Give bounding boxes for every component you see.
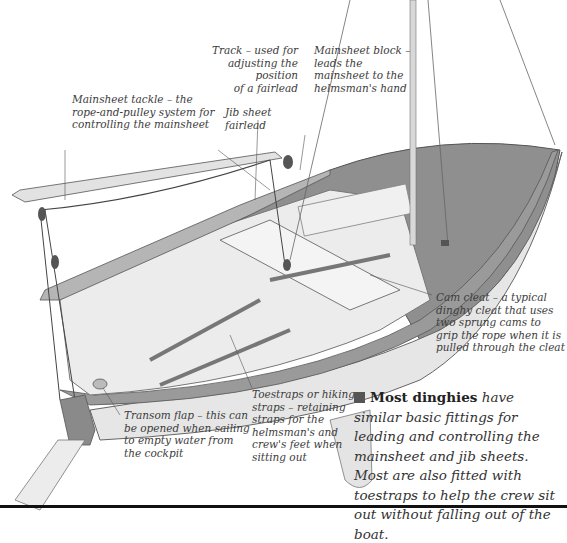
label-mainsheet-block: Mainsheet block – leads the mainsheet to… <box>314 44 411 94</box>
label-line: crew's feet when <box>252 438 355 451</box>
caption: Most dinghies have similar basic fitting… <box>354 388 564 543</box>
label-line: be opened when sailing <box>124 422 250 435</box>
label-line: the cockpit <box>124 447 250 460</box>
label-line: straps – retaining <box>252 401 355 414</box>
label-toestraps: Toestraps or hiking straps – retaining s… <box>252 388 355 463</box>
label-line: controlling the mainsheet <box>72 118 214 131</box>
label-line: straps for the <box>252 413 355 426</box>
label-track: Track – used for adjusting the position … <box>208 44 298 94</box>
label-line: adjusting the position <box>208 57 298 82</box>
square-bullet-icon <box>354 392 365 403</box>
label-jib-sheet-fairlead: Jib sheet fairlead <box>225 106 271 131</box>
label-line: Mainsheet block – <box>314 44 411 57</box>
label-line: mainsheet to the <box>314 69 411 82</box>
label-line: helmsman's hand <box>314 82 411 95</box>
label-line: fairlead <box>225 119 271 132</box>
label-line: grip the rope when it is <box>436 329 565 342</box>
label-transom-flap: Transom flap – this can be opened when s… <box>124 409 250 459</box>
label-line: to empty water from <box>124 434 250 447</box>
label-line: dinghy cleat that uses <box>436 304 565 317</box>
label-line: Transom flap – this can <box>124 409 250 422</box>
label-mainsheet-tackle: Mainsheet tackle – the rope-and-pulley s… <box>72 93 214 131</box>
label-line: Jib sheet <box>225 106 271 119</box>
label-cam-cleat: Cam cleat – a typical dinghy cleat that … <box>436 291 565 354</box>
label-line: rope-and-pulley system for <box>72 106 214 119</box>
label-line: Track – used for <box>208 44 298 57</box>
caption-text: have similar basic fittings for leading … <box>354 389 555 542</box>
label-line: sitting out <box>252 451 355 464</box>
label-line: helmsman's and <box>252 426 355 439</box>
label-line: Mainsheet tackle – the <box>72 93 214 106</box>
label-line: Toestraps or hiking <box>252 388 355 401</box>
label-line: Cam cleat – a typical <box>436 291 565 304</box>
label-line: pulled through the cleat <box>436 341 565 354</box>
label-line: leads the <box>314 57 411 70</box>
bottom-rule <box>0 505 567 508</box>
label-line: two sprung cams to <box>436 316 565 329</box>
label-line: of a fairlead <box>208 82 298 95</box>
caption-lead: Most dinghies <box>370 389 477 405</box>
